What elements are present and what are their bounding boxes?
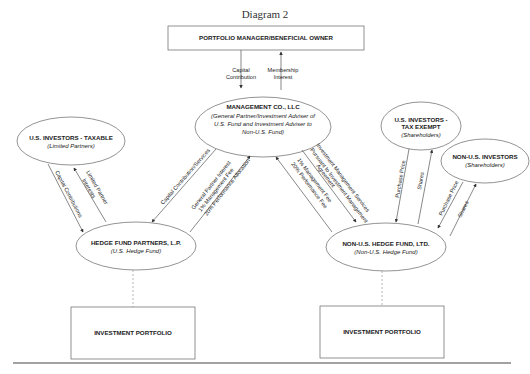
us-investors-taxable-node: U.S. INVESTORS - TAXABLE (Limited Partne… xyxy=(17,117,125,165)
us-taxable-label: U.S. INVESTORS - TAXABLE xyxy=(29,134,113,141)
portfolio-right-label: INVESTMENT PORTFOLIO xyxy=(343,328,421,335)
management-co-sub: (General Partner/Investment Adviser of xyxy=(211,113,316,119)
portfolio-left-label: INVESTMENT PORTFOLIO xyxy=(94,329,172,336)
portfolio-manager-node: PORTFOLIO MANAGER/BENEFICIAL OWNER xyxy=(168,26,364,50)
hedge-fund-lp-sub: (U.S. Hedge Fund) xyxy=(111,248,161,254)
edge-label: Purchase Price xyxy=(394,160,406,198)
management-co-label: MANAGEMENT CO., LLC xyxy=(226,103,300,110)
us-tax-exempt-sub: (Shareholders) xyxy=(401,132,441,138)
non-us-fund-label: NON-U.S. HEDGE FUND, LTD. xyxy=(342,240,429,247)
investment-portfolio-left-node: INVESTMENT PORTFOLIO xyxy=(71,307,195,359)
non-us-investors-node: NON-U.S. INVESTORS (Shareholders) xyxy=(441,139,529,183)
hedge-fund-lp-node: HEDGE FUND PARTNERS, L.P. (U.S. Hedge Fu… xyxy=(76,222,196,270)
edge-label: Purchase Price xyxy=(438,180,460,217)
non-us-fund-sub: (Non-U.S. Hedge Fund) xyxy=(354,249,417,255)
us-taxable-sub: (Limited Partners) xyxy=(47,143,95,149)
edge-label: Shares xyxy=(416,171,425,190)
investment-portfolio-right-node: INVESTMENT PORTFOLIO xyxy=(320,306,444,358)
edge-label: Contribution xyxy=(226,74,256,80)
edge-label: Shares xyxy=(457,200,470,219)
edge-label: Interest xyxy=(274,74,293,80)
management-co-node: MANAGEMENT CO., LLC (General Partner/Inv… xyxy=(195,97,331,157)
management-co-sub: Non-U.S. Fund) xyxy=(242,129,284,135)
edge-label: Membership xyxy=(268,67,299,73)
us-tax-exempt-label: TAX EXEMPT xyxy=(401,123,440,130)
us-tax-exempt-label: U.S. INVESTORS - xyxy=(394,116,447,123)
diagram-title: Diagram 2 xyxy=(242,8,289,20)
hedge-fund-lp-label: HEDGE FUND PARTNERS, L.P. xyxy=(91,239,181,246)
non-us-hedge-fund-node: NON-U.S. HEDGE FUND, LTD. (Non-U.S. Hedg… xyxy=(326,223,446,271)
non-us-investors-sub: (Shareholders) xyxy=(465,162,505,168)
edge-label: Capital xyxy=(232,67,249,73)
structure-diagram: Diagram 2 PORTFOLIO MANAGER/BENEFICIAL O… xyxy=(0,0,530,374)
us-investors-tax-exempt-node: U.S. INVESTORS - TAX EXEMPT (Shareholder… xyxy=(381,102,461,150)
management-co-sub: U.S. Fund and Investment Adviser to xyxy=(214,121,312,127)
non-us-investors-label: NON-U.S. INVESTORS xyxy=(452,153,517,160)
portfolio-manager-label: PORTFOLIO MANAGER/BENEFICIAL OWNER xyxy=(199,34,333,41)
